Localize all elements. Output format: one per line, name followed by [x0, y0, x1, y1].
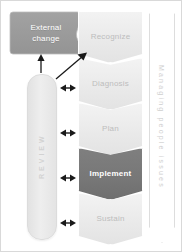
- arrow-review-to-diagnosis: [60, 85, 76, 92]
- connector-arrows: [1, 1, 182, 252]
- arrow-review-to-recognize: [56, 53, 87, 80]
- arrow-review-to-sustain: [60, 220, 76, 227]
- arrow-review-to-implement: [60, 175, 76, 182]
- arrow-review-to-external-change: [37, 54, 44, 73]
- arrow-review-to-plan: [60, 130, 76, 137]
- diagram-canvas: External change REVIEW Recognize Diagnos…: [0, 0, 182, 252]
